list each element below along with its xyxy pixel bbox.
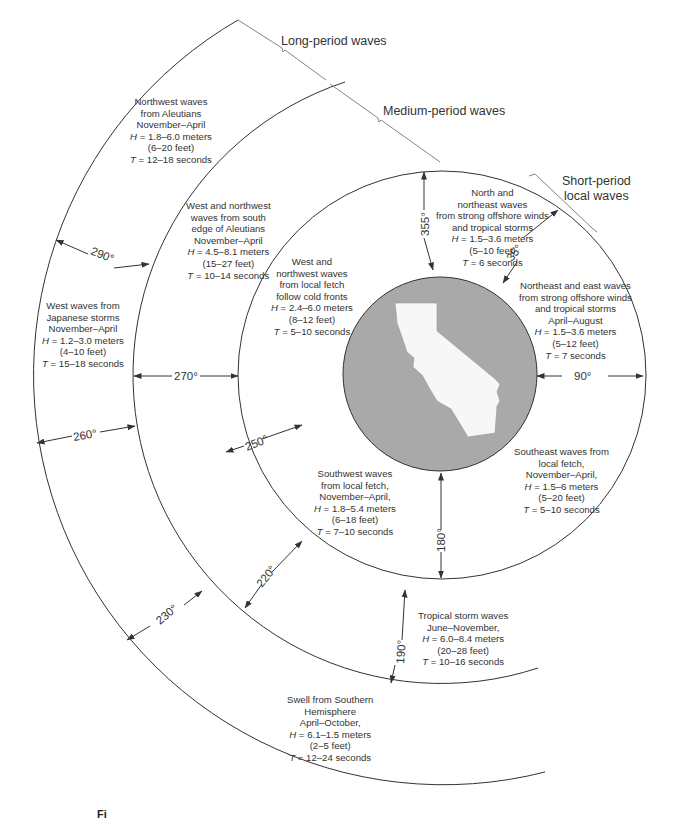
wave-group-southern-swell: Swell from Southern Hemisphere April–Oct… [287, 694, 373, 764]
angle-90: 90° [574, 370, 591, 382]
wave-group-se-local: Southeast waves from local fetch, Novemb… [514, 446, 609, 516]
arrow-290 [56, 240, 88, 254]
wave-group-wnw-local: West and northwest waves from local fetc… [271, 256, 353, 337]
arrow-190 [402, 590, 405, 640]
arrow-220 [272, 541, 302, 572]
angle-290: 290° [89, 245, 116, 265]
angle-190: 190° [394, 640, 408, 665]
wave-group-sw-local: Southwest waves from local fetch, Novemb… [314, 468, 396, 538]
arrow-250 [262, 425, 302, 439]
angle-355: 355° [419, 212, 431, 236]
arrow-230 [184, 591, 202, 605]
angle-230: 230° [154, 602, 180, 626]
wave-group-ne-e: Northeast and east waves from strong off… [519, 280, 632, 361]
short-period-label: Short-period local waves [562, 174, 631, 204]
angle-220: 220° [254, 563, 278, 589]
long-period-label: Long-period waves [281, 34, 387, 49]
angle-270: 270° [174, 370, 198, 382]
wave-group-n-ne: North and northeast waves from strong of… [436, 187, 549, 268]
long-period-bracket [238, 20, 326, 80]
wave-group-nw-aleutians: Northwest waves from Aleutians November–… [130, 96, 212, 166]
wave-group-wnw-south-aleutians: West and northwest waves from south edge… [186, 200, 271, 281]
medium-period-label: Medium-period waves [383, 104, 505, 119]
figure-label: Fi [97, 808, 107, 820]
angle-260: 260° [72, 427, 98, 443]
wave-group-tropical: Tropical storm waves June–November, H = … [418, 610, 508, 668]
medium-period-bracket [330, 84, 440, 162]
angle-180: 180° [435, 528, 447, 552]
arrow-260 [37, 436, 72, 443]
wave-group-w-japan: West waves from Japanese storms November… [42, 300, 124, 370]
